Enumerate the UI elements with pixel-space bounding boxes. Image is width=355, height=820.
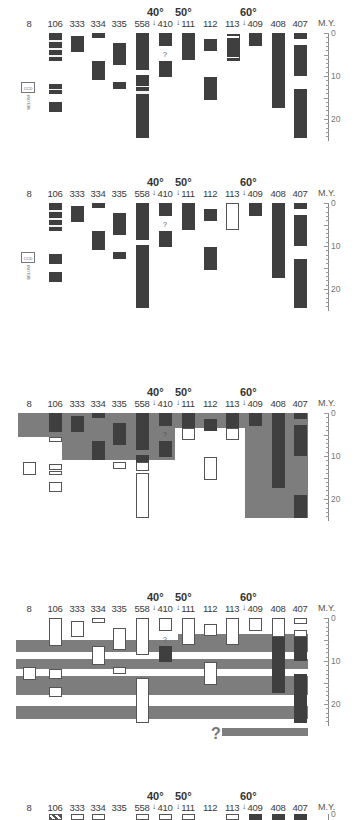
site-label-409: 409: [243, 18, 267, 29]
axis-tick: [326, 495, 329, 496]
axis-tick: [326, 72, 329, 73]
sediment-block: [294, 33, 307, 39]
open-interval: [49, 618, 62, 646]
hiatus-band: [178, 634, 308, 640]
site-label-558: 558: [130, 398, 154, 409]
site-label-335: 335: [107, 802, 131, 813]
open-interval: [226, 618, 239, 645]
site-label-8: 8: [17, 188, 41, 199]
axis-tick-label: 10: [331, 241, 340, 251]
axis-tick: [326, 700, 329, 701]
axis-tick: [324, 704, 329, 705]
site-label-112: 112: [198, 603, 222, 614]
sediment-block: [204, 247, 217, 269]
axis-tick: [326, 123, 329, 124]
axis-tick: [326, 713, 329, 714]
sediment-block: [249, 203, 262, 216]
gap-line: [49, 55, 62, 57]
gap-line: [49, 210, 62, 212]
axis-tick: [326, 486, 329, 487]
axis-tick: [324, 640, 329, 641]
sediment-block: [136, 203, 149, 240]
site-label-407: 407: [288, 398, 312, 409]
sediment-block: [136, 75, 149, 138]
sediment-block: [92, 441, 105, 461]
site-label-113: 113: [220, 18, 244, 29]
time-axis: [328, 33, 329, 141]
axis-tick: [326, 452, 329, 453]
site-label-410: 410: [153, 802, 177, 813]
axis-tick: [326, 67, 329, 68]
gap-line: [136, 86, 149, 88]
site-label-407: 407: [288, 802, 312, 813]
axis-tick: [326, 93, 329, 94]
sediment-block: [136, 245, 149, 308]
axis-tick: [324, 225, 329, 226]
site-label-408: 408: [266, 603, 290, 614]
open-interval: [182, 814, 195, 820]
sediment-block: [294, 495, 307, 519]
axis-tick: [326, 263, 329, 264]
sediment-block: [113, 43, 126, 65]
axis-tick: [326, 508, 329, 509]
latitude-40: 40°: [147, 6, 164, 18]
axis-tick: [326, 63, 329, 64]
question-mark: ?: [163, 431, 167, 438]
axis-tick: [326, 657, 329, 658]
axis-tick: [326, 422, 329, 423]
open-interval: [113, 667, 126, 673]
sediment-block: [159, 203, 172, 216]
sediment-block: [294, 89, 307, 138]
down-arrow-icon: ↓: [176, 188, 180, 197]
axis-tick: [326, 627, 329, 628]
axis-tick: [324, 478, 329, 479]
site-label-335: 335: [107, 398, 131, 409]
question-mark: ?: [163, 221, 167, 228]
site-label-106: 106: [43, 188, 67, 199]
open-interval: [272, 618, 285, 637]
site-label-106: 106: [43, 603, 67, 614]
latitude-40: 40°: [147, 386, 164, 398]
gap-line: [49, 218, 62, 220]
axis-tick: [326, 306, 329, 307]
site-label-408: 408: [266, 188, 290, 199]
axis-tick: [326, 102, 329, 103]
site-label-410: 410: [153, 188, 177, 199]
axis-tick: [326, 285, 329, 286]
my-axis-label: M.Y.: [318, 188, 335, 198]
axis-tick: [324, 683, 329, 684]
axis-tick: [326, 237, 329, 238]
axis-tick: [326, 276, 329, 277]
axis-tick-label: 0: [331, 198, 336, 208]
latitude-60: 60°: [240, 591, 257, 603]
axis-tick: [326, 59, 329, 60]
time-axis: [328, 413, 329, 521]
sediment-block: [294, 674, 307, 723]
latitude-50: 50°: [175, 6, 192, 18]
latitude-50: 50°: [175, 790, 192, 802]
gap-line: [226, 36, 239, 38]
site-label-409: 409: [243, 398, 267, 409]
open-interval: [182, 618, 195, 645]
site-label-558: 558: [130, 603, 154, 614]
site-label-113: 113: [220, 802, 244, 813]
axis-tick: [326, 644, 329, 645]
open-interval: [113, 462, 126, 468]
latitude-50: 50°: [175, 386, 192, 398]
open-interval: [204, 662, 217, 684]
down-arrow-icon: ↓: [176, 18, 180, 27]
open-interval: [49, 471, 62, 475]
axis-tick: [326, 430, 329, 431]
latitude-60: 60°: [240, 6, 257, 18]
site-label-113: 113: [220, 188, 244, 199]
hiatus-band: [16, 706, 308, 719]
axis-tick: [326, 216, 329, 217]
axis-tick: [324, 289, 329, 290]
site-label-106: 106: [43, 18, 67, 29]
axis-tick: [326, 37, 329, 38]
open-interval: [49, 687, 62, 697]
site-label-409: 409: [243, 802, 267, 813]
diagram-panel: 810633333433555841011111211340940840740°…: [0, 788, 355, 819]
axis-tick: [326, 136, 329, 137]
down-arrow-icon: ↓: [152, 802, 156, 811]
